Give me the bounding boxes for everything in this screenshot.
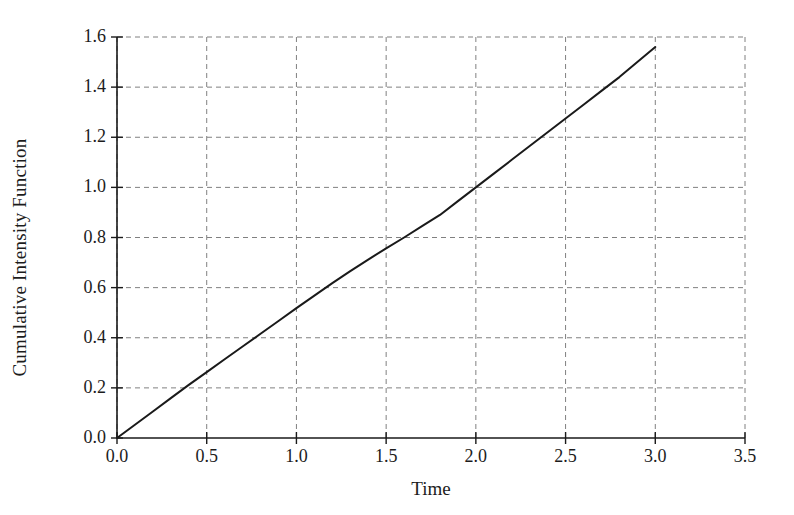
x-tick-label: 0.5 bbox=[177, 446, 237, 467]
y-tick-label: 0.4 bbox=[46, 327, 106, 348]
x-tick-label: 1.5 bbox=[356, 446, 416, 467]
x-axis-title: Time bbox=[117, 478, 745, 500]
x-tick-label: 3.0 bbox=[625, 446, 685, 467]
x-tick-label: 2.0 bbox=[446, 446, 506, 467]
x-tick-label: 3.5 bbox=[715, 446, 775, 467]
y-tick-label: 1.6 bbox=[46, 26, 106, 47]
y-tick-label: 0.8 bbox=[46, 227, 106, 248]
x-tick-label: 1.0 bbox=[266, 446, 326, 467]
horizontal-gridlines bbox=[117, 37, 745, 388]
y-tick-label: 0.6 bbox=[46, 277, 106, 298]
x-tick-label: 0.0 bbox=[87, 446, 147, 467]
y-tick-label: 1.0 bbox=[46, 176, 106, 197]
y-tick-label: 1.2 bbox=[46, 126, 106, 147]
chart-figure: Cumulative Intensity Function 0.00.51.01… bbox=[0, 0, 794, 515]
x-axis-title-text: Time bbox=[411, 478, 450, 499]
plot-area bbox=[0, 0, 794, 515]
y-tick-label: 1.4 bbox=[46, 76, 106, 97]
x-tick-label: 2.5 bbox=[536, 446, 596, 467]
y-tick-label: 0.0 bbox=[46, 427, 106, 448]
y-tick-label: 0.2 bbox=[46, 377, 106, 398]
